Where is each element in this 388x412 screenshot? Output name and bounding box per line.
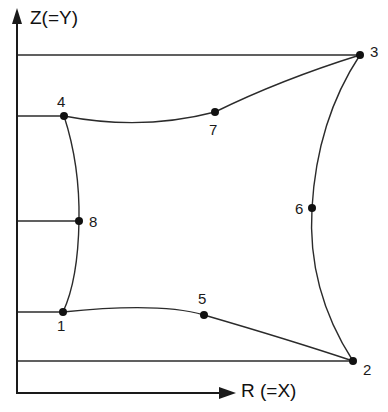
node-label-1: 1 [57, 318, 65, 333]
node-label-5: 5 [198, 291, 206, 306]
node-dot-2 [349, 357, 357, 365]
node-dot-6 [308, 204, 316, 212]
node-dot-1 [59, 308, 67, 316]
node-label-8: 8 [89, 214, 97, 229]
node-label-6: 6 [295, 201, 303, 216]
node-dot-5 [200, 311, 208, 319]
y-axis-label: Z(=Y) [30, 8, 78, 27]
node-dot-4 [60, 112, 68, 120]
edge-2-6-3 [312, 55, 360, 361]
node-label-3: 3 [370, 44, 378, 59]
up-arrow-icon [12, 8, 22, 24]
axes-group [12, 8, 236, 399]
diagram-canvas: 1 2 3 4 5 6 7 8 Z(=Y) R (=X) [0, 0, 388, 412]
x-axis-label: R (=X) [241, 381, 296, 400]
node-dot-8 [75, 217, 83, 225]
diagram-svg [0, 0, 388, 412]
node-label-7: 7 [209, 122, 217, 137]
node-label-4: 4 [57, 94, 65, 109]
node-dot-7 [211, 108, 219, 116]
node-dot-3 [356, 51, 364, 59]
edge-4-8-1 [63, 116, 79, 312]
right-arrow-icon [219, 387, 236, 399]
edge-1-5-2 [63, 308, 353, 361]
node-label-2: 2 [363, 362, 371, 377]
